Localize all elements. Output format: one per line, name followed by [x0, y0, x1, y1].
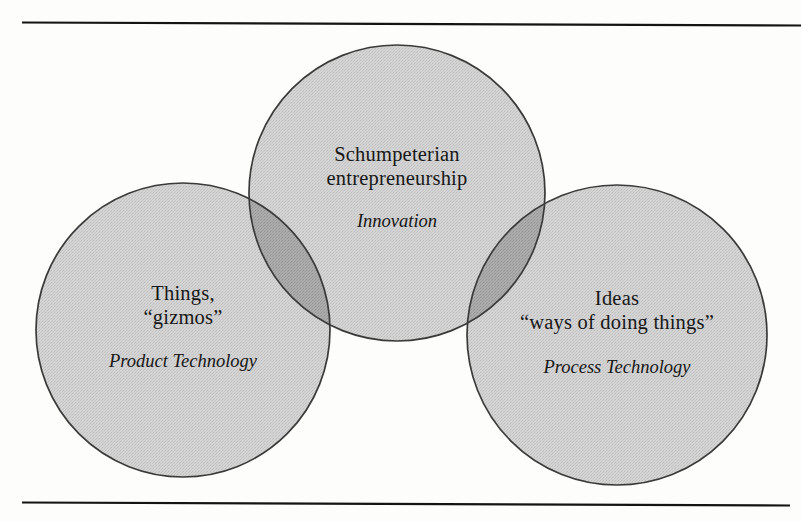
figure-root: Schumpeterian entrepreneurship Innovatio…	[0, 0, 801, 522]
venn-diagram	[0, 0, 801, 522]
